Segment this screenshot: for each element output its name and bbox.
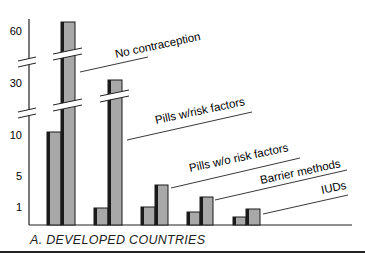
tick-label-5: 5 <box>16 170 22 182</box>
horizontal-rule <box>0 251 365 253</box>
svg-text:IUDs: IUDs <box>320 179 348 196</box>
svg-text:Pills w/risk factors: Pills w/risk factors <box>154 95 246 126</box>
bar-group-pills-without-risk <box>141 185 168 225</box>
bar-chart: 60 30 10 5 1 <box>0 0 365 262</box>
tick-label-60: 60 <box>10 25 22 37</box>
label-no-contraception: No contraception <box>80 30 201 72</box>
label-pills-with-risk: Pills w/risk factors <box>127 95 252 140</box>
tick-label-10: 10 <box>10 129 22 141</box>
bar-group-iuds <box>233 209 260 225</box>
label-iuds: IUDs <box>263 179 348 214</box>
tick-label-30: 30 <box>10 77 22 89</box>
svg-text:No contraception: No contraception <box>114 30 202 60</box>
svg-text:Pills w/o risk factors: Pills w/o risk factors <box>188 141 289 174</box>
bar-group-barrier-methods <box>187 197 213 225</box>
tick-label-1: 1 <box>16 201 22 213</box>
chart-caption: A. DEVELOPED COUNTRIES <box>30 233 205 247</box>
